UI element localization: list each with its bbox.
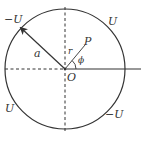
label-distance-r: r [68,46,73,56]
label-lower-right-minus-u: −U [105,108,124,121]
label-origin-o: O [67,71,76,84]
label-upper-left-minus-u: −U [4,13,23,26]
label-angle-phi: ϕ [78,55,84,65]
origin-point [64,68,67,71]
radius-arrow [21,28,65,69]
label-upper-right-u: U [108,15,118,28]
angle-arc [72,61,76,69]
label-radius-a: a [34,47,41,60]
potential-circle-diagram: −U U U −U a O P r ϕ [0,0,145,145]
label-point-p: P [83,35,92,48]
label-lower-left-u: U [5,102,15,115]
